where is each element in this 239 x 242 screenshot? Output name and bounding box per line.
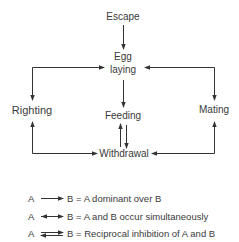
- node-escape: Escape: [106, 11, 139, 23]
- node-withdrawal: Withdrawal: [99, 148, 148, 160]
- legend-a: A: [28, 211, 34, 222]
- node-egg-laying-line2: laying: [110, 64, 136, 76]
- legend-a: A: [28, 228, 34, 239]
- legend-description: = A dominant over B: [76, 193, 161, 204]
- legend-item-dominant-text: B = A dominant over B: [67, 193, 161, 204]
- node-righting: Righting: [12, 104, 52, 116]
- legend-description: = A and B occur simultaneously: [76, 211, 208, 222]
- legend-a: A: [28, 193, 34, 204]
- node-mating: Mating: [199, 104, 229, 116]
- node-feeding: Feeding: [105, 110, 141, 122]
- legend-description: = Reciprocal inhibition of A and B: [76, 228, 215, 239]
- bracket-withdrawal-mating: [152, 123, 215, 154]
- legend-item-reciprocal-text: B = Reciprocal inhibition of A and B: [67, 228, 215, 239]
- legend-b: B: [67, 211, 73, 222]
- legend-item-reciprocal: A: [28, 228, 34, 239]
- bracket-egg-righting: [33, 68, 105, 101]
- legend-b: B: [67, 193, 73, 204]
- legend-item-simultaneous: A: [28, 211, 34, 222]
- legend-item-dominant: A: [28, 193, 34, 204]
- bracket-egg-mating: [145, 68, 215, 101]
- node-egg-laying-line1: Egg: [114, 51, 132, 63]
- legend-item-simultaneous-text: B = A and B occur simultaneously: [67, 211, 208, 222]
- legend-b: B: [67, 228, 73, 239]
- bracket-withdrawal-righting: [33, 123, 98, 154]
